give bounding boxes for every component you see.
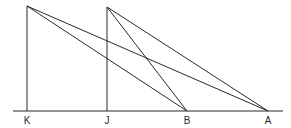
geometry-diagram: K J B A [0, 0, 291, 128]
line-j-top-to-a [107, 7, 268, 111]
line-j-top-to-b [107, 7, 187, 111]
label-j: J [105, 115, 110, 126]
label-a: A [265, 115, 272, 126]
line-k-top-to-a [27, 6, 268, 111]
label-b: B [184, 115, 191, 126]
label-k: K [24, 115, 31, 126]
